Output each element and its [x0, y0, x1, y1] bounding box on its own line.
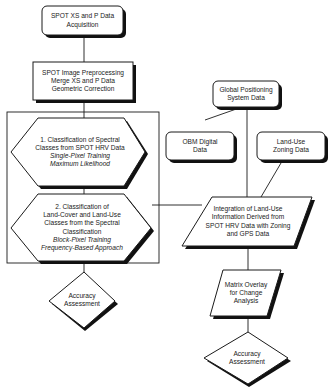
- classification2-method-2: Frequency-Based Approach: [41, 244, 123, 252]
- matrix-node: Matrix Overlayfor ChangeAnalysis: [215, 270, 277, 316]
- classification2-label-4: Classification: [41, 228, 123, 236]
- matrix-label-3: Analysis: [225, 297, 268, 305]
- zoning-label-1: Land-Use: [273, 138, 309, 146]
- zoning-label-2: Zoning Data: [273, 146, 309, 154]
- integration-label-4: and GPS Data: [206, 230, 291, 238]
- classification1-label-1: 1. Classification of Spectral: [35, 136, 125, 144]
- integration-label-1: Integration of Land-Use: [206, 205, 291, 213]
- obm-node: OBM DigitalData: [166, 132, 234, 160]
- obm-label-1: OBM Digital: [182, 138, 217, 146]
- preprocessing-node: SPOT Image PreprocessingMerge XS and P D…: [33, 62, 133, 100]
- connector-zoning-integration: [261, 163, 281, 197]
- preprocessing-label-2: Merge XS and P Data: [42, 77, 124, 85]
- preprocessing-label-1: SPOT Image Preprocessing: [42, 69, 124, 77]
- acquisition-label-2: Acquisition: [51, 21, 114, 29]
- classification1-method-1: Single-Pixel Training: [35, 152, 125, 160]
- accuracy-right-label-1: Accuracy: [229, 350, 265, 358]
- accuracy-left-node: AccuracyAssessment: [49, 272, 115, 328]
- classification1-method-2: Maximum Likelihood: [35, 160, 125, 168]
- gps-label-1: Global Positioning: [219, 86, 272, 94]
- accuracy-left-label-2: Assessment: [64, 300, 100, 308]
- obm-label-2: Data: [182, 146, 217, 154]
- zoning-node: Land-UseZoning Data: [257, 132, 325, 160]
- accuracy-right-node: AccuracyAssessment: [206, 332, 288, 384]
- classification1-node: 1. Classification of SpectralClasses fro…: [20, 118, 140, 186]
- matrix-label-2: for Change: [225, 289, 268, 297]
- classification1-label-2: Classes from SPOT HRV Data: [35, 144, 125, 152]
- accuracy-left-label-1: Accuracy: [64, 292, 100, 300]
- classification2-label-3: Classes from the Spectral: [41, 219, 123, 227]
- integration-label-3: SPOT HRV Data with Zoning: [206, 222, 291, 230]
- classification2-label-2: Land-Cover and Land-Use: [41, 211, 123, 219]
- classification2-method-1: Block-Pixel Training: [41, 236, 123, 244]
- preprocessing-label-3: Geometric Correction: [42, 85, 124, 93]
- classification2-node: 2. Classification ofLand-Cover and Land-…: [20, 194, 144, 261]
- matrix-label-1: Matrix Overlay: [225, 281, 268, 289]
- acquisition-node: SPOT XS and P DataAcquisition: [42, 6, 123, 35]
- accuracy-right-label-2: Assessment: [229, 358, 265, 366]
- acquisition-label-1: SPOT XS and P Data: [51, 12, 114, 20]
- integration-node: Integration of Land-UseInformation Deriv…: [192, 197, 304, 246]
- gps-label-2: System Data: [219, 94, 272, 102]
- classification2-label-1: 2. Classification of: [41, 203, 123, 211]
- gps-node: Global PositioningSystem Data: [213, 81, 279, 107]
- integration-label-2: Information Derived from: [206, 213, 291, 221]
